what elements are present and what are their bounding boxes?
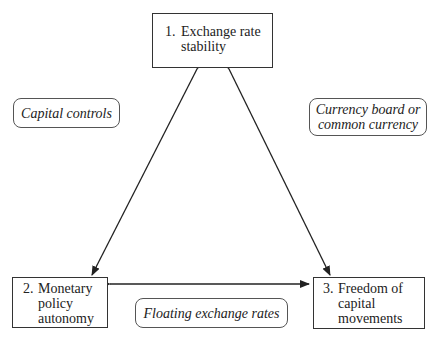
policy-floating-exchange-rates: Floating exchange rates [135,298,288,328]
goal-label-line: Monetary [38,281,92,296]
goal-exchange-rate-stability: 1. Exchange rate stability [152,13,273,68]
policy-label-line: Capital controls [14,106,119,121]
policy-capital-controls: Capital controls [13,98,120,128]
policy-label-line: Floating exchange rates [136,306,287,321]
policy-currency-board: Currency board or common currency [309,98,427,136]
goal-label-line: capital [338,296,375,311]
goal-number: 1. [165,24,176,39]
goal-number: 2. [23,281,34,296]
goal-label-line: autonomy [38,311,94,326]
goal-label-line: Exchange rate [181,24,261,39]
goal-number: 3. [323,281,334,296]
goal-freedom-of-capital-movements: 3. Freedom of capital movements [313,277,425,329]
goal-label-line: movements [338,311,403,326]
policy-label-line: common currency [310,117,426,132]
goal-monetary-policy-autonomy: 2. Monetary policy autonomy [12,277,108,328]
goal-label-line: Freedom of [338,281,403,296]
policy-label-line: Currency board or [310,102,426,117]
goal-label-line: policy [38,296,73,311]
trilemma-diagram: 1. Exchange rate stability 2. Monetary p… [0,0,438,345]
goal-label-line: stability [181,39,226,54]
